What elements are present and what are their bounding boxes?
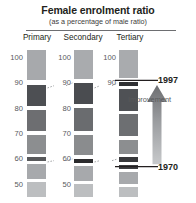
axis-tick-label: 90	[95, 78, 116, 87]
year-label-1970: 1970	[158, 162, 178, 172]
bar-band	[74, 184, 93, 197]
bar-band	[119, 140, 138, 154]
bar-band	[119, 114, 138, 136]
axis-tick-label: 70	[2, 129, 23, 138]
chart-subtitle: (as a percentage of male ratio)	[0, 17, 196, 26]
axis-tick-label: 70	[50, 129, 71, 138]
chart-title: Female enrolment ratio	[0, 4, 196, 16]
axis-tick-label: 100	[95, 53, 116, 62]
axis-tick-label: 50	[50, 180, 71, 189]
improvement-label: Improvement	[128, 95, 171, 104]
axis-tick-label: 50	[2, 180, 23, 189]
bar-band	[27, 110, 46, 132]
column-header-secondary: Secondary	[56, 33, 110, 42]
bar-band	[27, 85, 46, 105]
bar-band	[119, 172, 138, 185]
bar-primary	[27, 50, 46, 197]
axis-tick-label: 60	[2, 154, 23, 163]
bar-band	[74, 166, 93, 180]
column-header-primary: Primary	[12, 33, 62, 42]
axis-tick-label: 60	[50, 154, 71, 163]
axis-tick-label: 90	[2, 78, 23, 87]
connector-line	[112, 159, 118, 161]
bar-band	[74, 83, 93, 105]
bar-band	[119, 50, 138, 78]
axis-tick-label: 90	[50, 78, 71, 87]
axis-tick-label: 100	[2, 53, 23, 62]
connector-line	[95, 161, 101, 162]
bar-tertiary	[119, 50, 138, 197]
bar-band	[74, 50, 93, 79]
bar-band	[74, 135, 93, 155]
bar-band	[27, 182, 46, 197]
year-label-1997: 1997	[158, 75, 178, 85]
column-header-tertiary: Tertiary	[105, 33, 155, 42]
axis-tick-label: 80	[2, 104, 23, 113]
chart-figure: Female enrolment ratio (as a percentage …	[0, 0, 196, 203]
bar-band	[119, 187, 138, 197]
header-divider	[26, 30, 176, 31]
axis-tick-label: 100	[50, 53, 71, 62]
bar-secondary	[74, 50, 93, 197]
bar-band	[74, 108, 93, 131]
bar-band	[27, 164, 46, 179]
axis-tick-label: 80	[50, 104, 71, 113]
bar-band	[27, 50, 46, 80]
bar-band	[27, 135, 46, 154]
